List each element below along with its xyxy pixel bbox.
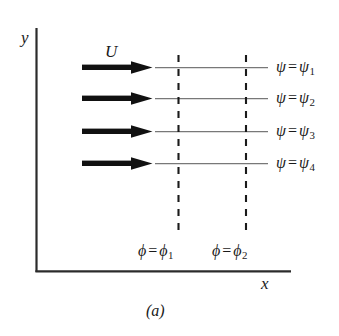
psi-symbol-2: ψ	[276, 89, 286, 106]
psi-value-symbol-4: ψ	[299, 154, 309, 171]
psi-symbol-1: ψ	[276, 58, 286, 75]
phi-subscript-1: 1	[168, 249, 174, 261]
psi-symbol-4: ψ	[276, 154, 286, 171]
streamline-label-4: ψ=ψ4	[276, 155, 315, 173]
psi-subscript-3: 3	[309, 129, 315, 141]
psi-symbol-3: ψ	[276, 122, 286, 139]
psi-value-symbol-2: ψ	[299, 89, 309, 106]
psi-value-symbol-3: ψ	[299, 122, 309, 139]
velocity-arrows-group	[82, 61, 153, 170]
velocity-arrow-3	[82, 125, 153, 138]
axes-group	[35, 28, 291, 272]
equals-sign-4: =	[286, 154, 299, 171]
velocity-arrow-2	[82, 92, 153, 105]
phi-value-symbol-2: ϕ	[233, 242, 241, 259]
equals-sign-2: =	[286, 89, 299, 106]
uniform-flow-figure: y x U ψ=ψ1 ψ=ψ2 ψ=ψ3 ψ=ψ4 ϕ=ϕ1 ϕ=ϕ2 (a)	[0, 0, 339, 336]
streamline-label-3: ψ=ψ3	[276, 123, 315, 141]
phi-subscript-2: 2	[242, 249, 248, 261]
streamlines-group	[155, 68, 268, 164]
equals-sign-3: =	[286, 122, 299, 139]
equals-sign-1: =	[286, 58, 299, 75]
equipotential-label-1: ϕ=ϕ1	[138, 243, 174, 261]
equipotentials-group	[179, 55, 247, 233]
streamline-label-1: ψ=ψ1	[276, 59, 315, 77]
psi-subscript-2: 2	[309, 96, 315, 108]
velocity-arrow-1	[82, 61, 153, 74]
x-axis-label: x	[261, 275, 269, 292]
streamline-label-2: ψ=ψ2	[276, 90, 315, 108]
psi-subscript-1: 1	[309, 65, 315, 77]
figure-caption: (a)	[146, 303, 165, 319]
phi-equals-sign-2: =	[220, 242, 233, 259]
phi-equals-sign-1: =	[146, 242, 159, 259]
velocity-label-U: U	[105, 43, 117, 60]
phi-value-symbol-1: ϕ	[159, 242, 167, 259]
velocity-arrow-4	[82, 157, 153, 170]
psi-subscript-4: 4	[309, 161, 315, 173]
y-axis-label: y	[21, 29, 29, 46]
equipotential-label-2: ϕ=ϕ2	[212, 243, 248, 261]
psi-value-symbol-1: ψ	[299, 58, 309, 75]
